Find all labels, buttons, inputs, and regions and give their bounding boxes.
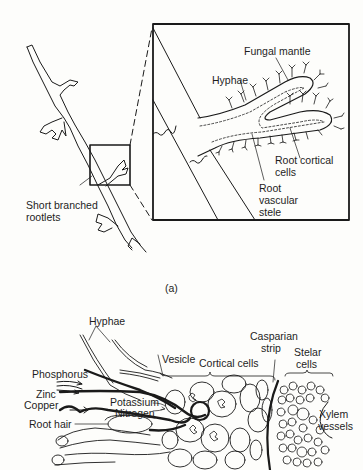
- label-stelar-cells-line1: Stelar: [294, 346, 321, 358]
- label-short-branched-rootlets-line1: Short branched: [26, 199, 98, 211]
- label-copper: Copper: [24, 399, 58, 411]
- panel-a-caption: (a): [165, 282, 178, 294]
- cortical-cells-brace: [160, 372, 275, 380]
- magnify-box: [90, 145, 130, 185]
- label-fungal-mantle: Fungal mantle: [244, 45, 311, 57]
- label-vesicle: Vesicle: [162, 353, 195, 365]
- label-phosphorus: Phosphorus: [32, 368, 88, 380]
- label-root-vascular-stele-line1: Root: [259, 182, 281, 194]
- label-casparian-strip-line1: Casparian: [250, 330, 298, 342]
- label-nitrogen: Nitrogen: [115, 407, 155, 419]
- label-xylem-vessels-line1: Xylem: [319, 408, 348, 420]
- stelar-cells-brace: [285, 370, 333, 376]
- label-hyphae-b: Hyphae: [89, 315, 125, 327]
- label-short-branched-rootlets-line2: rootlets: [26, 211, 60, 223]
- label-root-vascular-stele-line3: stele: [259, 206, 281, 218]
- label-root-cortical-cells-line1: Root cortical: [275, 154, 333, 166]
- label-cortical-cells: Cortical cells: [199, 357, 259, 369]
- label-hyphae-a: Hyphae: [212, 74, 248, 86]
- casparian-strip: [267, 381, 278, 470]
- root-cross-section: [52, 326, 333, 470]
- label-xylem-vessels-line2: vessels: [318, 420, 353, 432]
- label-root-cortical-cells-line2: cells: [275, 166, 296, 178]
- label-root-hair: Root hair: [29, 418, 72, 430]
- label-stelar-cells-line2: cells: [296, 358, 317, 370]
- label-casparian-strip-line2: strip: [261, 342, 281, 354]
- label-root-vascular-stele-line2: vascular: [259, 194, 298, 206]
